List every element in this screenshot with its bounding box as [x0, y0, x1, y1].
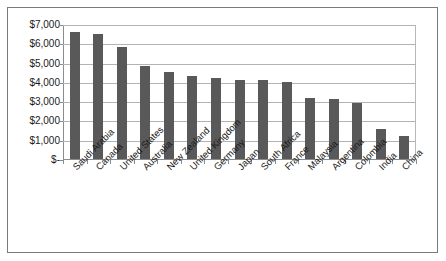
y-axis-tick-label: $7,000: [12, 20, 60, 30]
gridline: [63, 25, 416, 26]
chart-plot-wrapper: $-$1,000$2,000$3,000$4,000$5,000$6,000$7…: [8, 8, 439, 254]
chart-frame: $-$1,000$2,000$3,000$4,000$5,000$6,000$7…: [7, 7, 438, 253]
y-axis-tick-label: $3,000: [12, 97, 60, 107]
y-axis-tick-label: $6,000: [12, 39, 60, 49]
gridline: [63, 44, 416, 45]
y-axis-tick-label: $1,000: [12, 136, 60, 146]
y-axis-tick-label: $-: [12, 155, 60, 165]
y-axis-tick-label: $4,000: [12, 78, 60, 88]
bar[interactable]: [258, 80, 268, 159]
x-axis-labels: Saudi ArabiaCanadaUnited StatesAustralia…: [63, 163, 433, 251]
y-axis-tick-label: $5,000: [12, 59, 60, 69]
bar[interactable]: [70, 32, 80, 159]
y-axis-labels: $-$1,000$2,000$3,000$4,000$5,000$6,000$7…: [8, 25, 60, 160]
gridline: [63, 64, 416, 65]
y-axis-tick-label: $2,000: [12, 116, 60, 126]
